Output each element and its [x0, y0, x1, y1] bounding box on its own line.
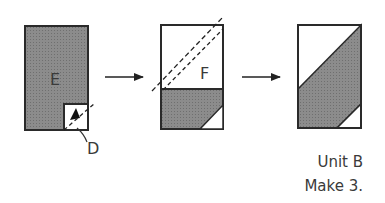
- label-e: E: [50, 70, 60, 89]
- step2-block: F: [152, 17, 223, 129]
- caption-quantity: Make 3.: [304, 174, 363, 198]
- caption: Unit B Make 3.: [304, 150, 363, 198]
- label-d: D: [87, 139, 99, 158]
- caption-unit: Unit B: [304, 150, 363, 174]
- step1-block: E D: [25, 26, 99, 158]
- label-f: F: [200, 64, 209, 83]
- unit-b-block: [298, 25, 361, 128]
